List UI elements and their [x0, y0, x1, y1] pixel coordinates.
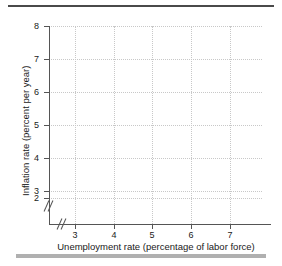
- y-axis-tick: [44, 26, 50, 27]
- gridline-vertical: [191, 26, 192, 224]
- gridline-vertical: [152, 26, 153, 224]
- x-axis-tick: [230, 224, 231, 229]
- x-axis-tick: [191, 224, 192, 229]
- x-axis-tick-label: 7: [220, 231, 240, 240]
- gridline-vertical: [114, 26, 115, 224]
- x-axis-tick-label: 6: [181, 231, 201, 240]
- x-axis-tick-label: 4: [104, 231, 124, 240]
- y-axis-tick: [44, 92, 50, 93]
- gridline-vertical: [230, 26, 231, 224]
- bottom-divider-rule: [16, 254, 266, 258]
- x-axis-tick-label: 5: [142, 231, 162, 240]
- y-axis-title: Inflation rate (percent per year): [20, 0, 31, 196]
- x-axis-break-icon: [56, 218, 68, 230]
- x-axis-tick: [152, 224, 153, 229]
- plot-area: [49, 26, 262, 224]
- gridline-vertical: [75, 26, 76, 224]
- x-axis-tick: [75, 224, 76, 229]
- y-axis-break-icon: [43, 200, 55, 212]
- top-divider-rule: [8, 5, 274, 7]
- chart-figure: 8 7 6 5 4 3 2 3 4 5 6 7 Inflation rate (…: [0, 0, 282, 266]
- y-axis-tick: [44, 198, 50, 199]
- y-axis-tick: [44, 191, 50, 192]
- x-axis-line: [49, 224, 271, 225]
- x-axis-tick-label: 3: [65, 231, 85, 240]
- y-axis-tick: [44, 59, 50, 60]
- y-axis-tick: [44, 125, 50, 126]
- x-axis-title: Unemployment rate (percentage of labor f…: [40, 241, 272, 252]
- x-axis-tick: [114, 224, 115, 229]
- y-axis-tick: [44, 158, 50, 159]
